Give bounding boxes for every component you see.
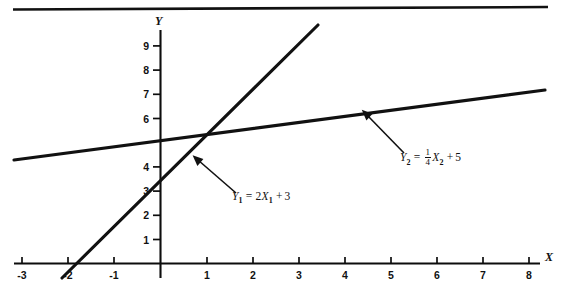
x-tick-label: -2 [63, 269, 72, 281]
top-rule [13, 7, 548, 10]
eq1-equals: = [246, 190, 253, 202]
equation-label-y1: Y1=2X1+3 [232, 190, 291, 205]
leader-y2 [362, 110, 404, 153]
x-tick-label: -1 [109, 269, 118, 281]
eq2-var-sub: 2 [439, 158, 443, 167]
x-tick-label: 6 [434, 269, 440, 281]
eq1-intercept: 3 [285, 190, 291, 202]
y-tick-label: 4 [143, 161, 149, 173]
line-y1 [62, 25, 318, 278]
y-tick-label: 8 [143, 64, 149, 76]
x-tick-label: 4 [342, 269, 348, 281]
eq1-lhs-sub: 1 [239, 196, 243, 205]
y-tick-label: 9 [143, 40, 149, 52]
eq1-lhs: Y [232, 190, 239, 202]
figure-canvas: Y X -3 -2 -1 1 2 3 4 5 6 7 8 1 2 3 4 6 7… [0, 0, 561, 295]
x-axis-label: X [545, 250, 553, 265]
leader-y1 [193, 155, 236, 193]
equation-label-y2: Y2=14X2+5 [400, 148, 461, 167]
eq2-plus: + [447, 151, 454, 163]
x-tick-label: 1 [204, 269, 210, 281]
y-tick-label: 3 [143, 185, 149, 197]
x-tick-label: 7 [480, 269, 486, 281]
y-tick-label: 2 [143, 209, 149, 221]
eq2-lhs: Y [400, 151, 407, 163]
eq1-plus: + [276, 190, 283, 202]
eq2-frac-denominator: 4 [425, 157, 432, 167]
eq1-var-sub: 1 [269, 196, 273, 205]
x-tick-label: 3 [296, 269, 302, 281]
x-tick-label: 5 [388, 269, 394, 281]
eq2-fraction: 14 [425, 148, 432, 167]
eq2-intercept: 5 [455, 151, 461, 163]
x-tick-label: 2 [250, 269, 256, 281]
eq2-frac-numerator: 1 [425, 148, 432, 157]
y-tick-label: 6 [143, 113, 149, 125]
line-y2 [14, 90, 545, 160]
linear-functions-plot [0, 0, 561, 295]
y-axis-label: Y [155, 14, 162, 29]
eq1-var: X [261, 190, 268, 202]
y-tick-label: 7 [143, 88, 149, 100]
x-tick-label: -3 [17, 269, 26, 281]
y-tick-label: 1 [143, 234, 149, 246]
x-tick-label: 8 [526, 269, 532, 281]
eq2-equals: = [414, 151, 421, 163]
eq2-lhs-sub: 2 [407, 158, 411, 167]
